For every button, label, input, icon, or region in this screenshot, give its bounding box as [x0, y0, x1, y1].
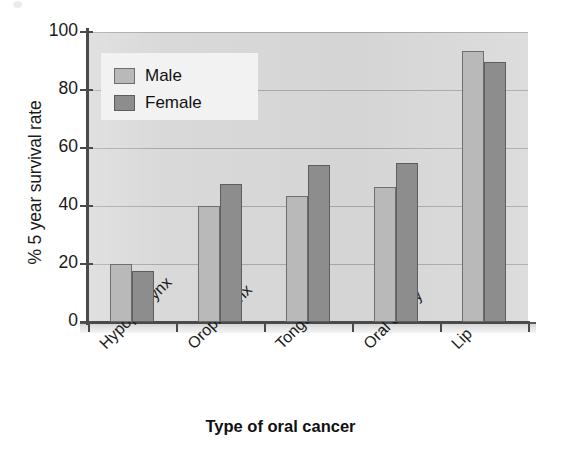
y-tick-80: [80, 89, 93, 91]
y-tick-label-20: 20: [34, 252, 78, 273]
bar-tongue-female: [308, 165, 330, 322]
x-tick-2: [264, 321, 266, 332]
y-tick-label-100: 100: [34, 20, 78, 41]
y-tick-label-40: 40: [34, 194, 78, 215]
y-tick-100: [80, 31, 93, 33]
bar-tongue-male: [286, 196, 308, 322]
y-tick-label-80: 80: [34, 78, 78, 99]
y-tick-60: [80, 147, 93, 149]
bar-oral-cavity-female: [396, 163, 418, 323]
legend-swatch-male: [114, 68, 135, 84]
legend-item-female: Female: [114, 89, 258, 116]
y-tick-40: [80, 205, 93, 207]
legend-label-male: Male: [145, 66, 182, 86]
bar-lip-female: [484, 62, 506, 322]
legend-swatch-female: [114, 95, 135, 111]
x-tick-1: [176, 321, 178, 332]
x-tick-5: [528, 321, 530, 332]
legend-item-male: Male: [114, 62, 258, 89]
bar-hypopharynx-female: [132, 271, 154, 322]
bar-chart-figure: % 5 year survival rate 020406080100 Hypo…: [0, 0, 561, 451]
bar-oropharynx-male: [198, 206, 220, 322]
gridline-100: [88, 32, 528, 33]
y-axis-line: [86, 28, 89, 325]
bar-oropharynx-female: [220, 184, 242, 322]
x-tick-4: [440, 321, 442, 332]
y-tick-0: [80, 321, 93, 323]
x-tick-3: [352, 321, 354, 332]
x-tick-0: [88, 321, 90, 332]
bar-lip-male: [462, 51, 484, 322]
bar-oral-cavity-male: [374, 187, 396, 322]
scan-speck: [13, 1, 22, 8]
y-tick-20: [80, 263, 93, 265]
bar-hypopharynx-male: [110, 264, 132, 322]
y-tick-label-60: 60: [34, 136, 78, 157]
y-tick-label-0: 0: [34, 310, 78, 331]
chart-legend: Male Female: [101, 53, 258, 120]
legend-label-female: Female: [145, 93, 202, 113]
x-axis-title: Type of oral cancer: [0, 417, 561, 436]
